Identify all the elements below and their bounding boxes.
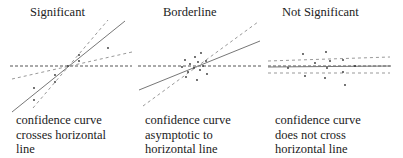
significant-plot: [10, 20, 132, 112]
caption-line: crosses horizontal: [16, 128, 106, 143]
caption-line: line: [16, 142, 106, 157]
caption-line: horizontal line: [275, 142, 361, 157]
panel-title-significant: Significant: [30, 5, 85, 20]
caption-line: confidence curve: [275, 113, 361, 128]
borderline-plot: [138, 22, 262, 106]
panel-title-borderline: Borderline: [163, 5, 216, 20]
caption-not-significant: confidence curve does not cross horizont…: [275, 113, 361, 157]
caption-line: confidence curve: [145, 113, 231, 128]
caption-line: asymptotic to: [145, 128, 231, 143]
panel-title-not-significant: Not Significant: [282, 5, 359, 20]
caption-line: does not cross: [275, 128, 361, 143]
not-significant-plot: [268, 51, 392, 86]
caption-line: confidence curve: [16, 113, 106, 128]
caption-significant: confidence curve crosses horizontal line: [16, 113, 106, 157]
caption-line: horizontal line: [145, 142, 231, 157]
caption-borderline: confidence curve asymptotic to horizonta…: [145, 113, 231, 157]
